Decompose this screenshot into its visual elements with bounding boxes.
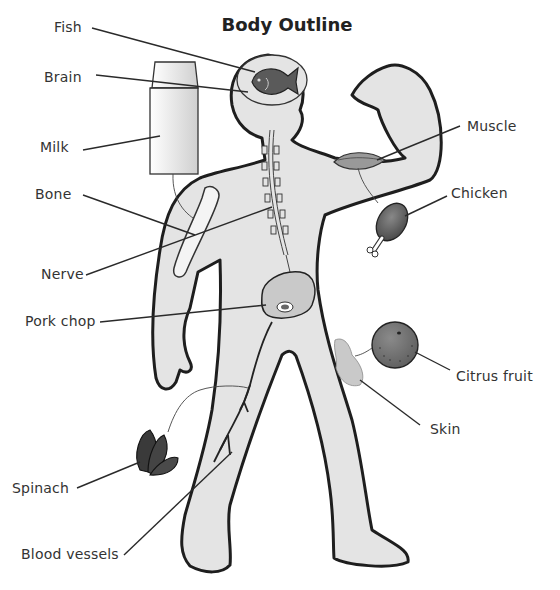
leader-spinach [77, 462, 140, 488]
label-nerve: Nerve [41, 266, 84, 282]
leader-chicken [405, 196, 447, 216]
label-citrus-fruit: Citrus fruit [456, 368, 533, 384]
leader-skin [360, 380, 420, 425]
label-spinach: Spinach [12, 480, 69, 496]
label-chicken: Chicken [451, 185, 508, 201]
label-milk: Milk [40, 139, 69, 155]
label-muscle: Muscle [467, 118, 517, 134]
leader-citrus-fruit [415, 352, 450, 370]
citrus-fruit-icon [355, 322, 418, 368]
label-pork-chop: Pork chop [25, 313, 96, 329]
body-outline-diagram [0, 0, 560, 590]
chicken-icon [367, 198, 414, 257]
label-blood-vessels: Blood vessels [21, 546, 119, 562]
label-skin: Skin [430, 421, 461, 437]
label-bone: Bone [35, 186, 71, 202]
spinach-icon [137, 430, 178, 475]
leader-milk [83, 136, 160, 150]
label-fish: Fish [54, 19, 82, 35]
label-brain: Brain [44, 69, 82, 85]
